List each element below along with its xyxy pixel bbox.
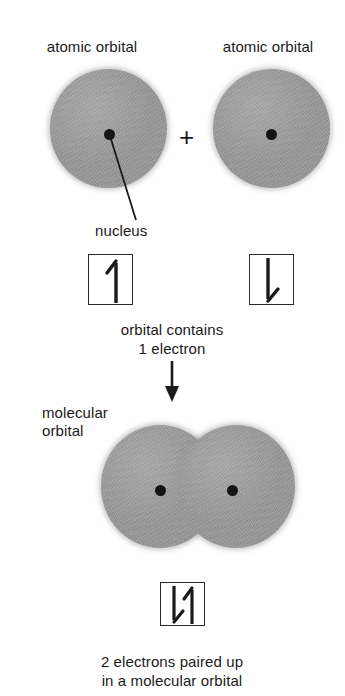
single-electron-caption: orbital contains 1 electron — [22, 320, 322, 358]
nucleus-dot-right — [266, 129, 277, 140]
electron-spin-down-arrow — [174, 586, 183, 622]
atomic-orbital-right-label: atomic orbital — [198, 38, 338, 56]
left-atomic-orbital-box — [88, 254, 133, 305]
electron-spin-up-arrow — [107, 261, 116, 303]
molecular-orbital-box — [160, 582, 205, 626]
orbital-overlap-diagram: atomic orbital atomic orbital + nucleus — [0, 0, 345, 696]
nucleus-dot-molecular-right — [227, 485, 238, 496]
process-arrow-down — [165, 361, 179, 402]
electron-spin-up-arrow — [184, 588, 192, 624]
plus-sign: + — [179, 124, 194, 150]
nucleus-dot-left — [104, 129, 115, 140]
right-atomic-orbital-box — [249, 254, 294, 305]
atomic-orbital-left-label: atomic orbital — [22, 38, 162, 56]
paired-electrons-caption: 2 electrons paired up in a molecular orb… — [22, 652, 322, 690]
nucleus-label: nucleus — [95, 222, 147, 240]
nucleus-dot-molecular-left — [155, 485, 166, 496]
electron-spin-down-arrow — [268, 258, 278, 301]
